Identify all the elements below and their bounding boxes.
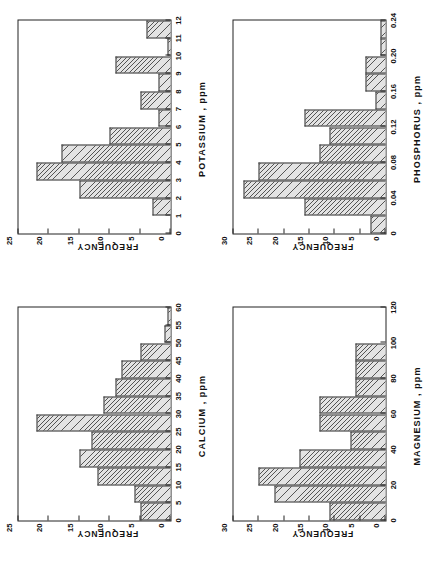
x-axis-label-potassium: POTASSIUM , ppm <box>197 11 207 276</box>
y-tick-label: 15 <box>296 236 305 244</box>
x-tick <box>166 306 171 307</box>
axis-ticks-phosphorus: 00.040.080.120.160.200.24051015202530 <box>233 20 385 233</box>
x-tick-label: 0 <box>174 231 183 235</box>
x-tick-label: 2 <box>174 195 183 199</box>
x-tick-label: 30 <box>174 409 183 417</box>
x-tick-label: 5 <box>174 142 183 146</box>
x-tick-label: 1 <box>174 213 183 217</box>
y-tick-label: 10 <box>321 236 330 244</box>
x-tick-label: 10 <box>174 480 183 488</box>
y-tick <box>257 515 258 520</box>
panel-phosphorus: FREQUENCY PHOSPHORUS , ppm 00.040.080.12… <box>215 0 429 287</box>
x-tick-label: 15 <box>174 463 183 471</box>
y-tick <box>359 515 360 520</box>
axis-ticks-potassium: 01234567891011120510152025 <box>19 20 171 233</box>
chart-potassium: FREQUENCY POTASSIUM , ppm 01234567891011… <box>10 11 206 276</box>
x-tick <box>380 197 385 198</box>
y-tick <box>139 228 140 233</box>
x-tick-label: 20 <box>388 480 397 488</box>
y-tick-label: 25 <box>5 523 14 531</box>
x-tick-label: 0.12 <box>388 119 397 134</box>
x-tick <box>166 72 171 73</box>
plot-area-phosphorus: 00.040.080.120.160.200.24051015202530 <box>232 19 386 234</box>
x-tick <box>166 448 171 449</box>
y-tick <box>170 515 171 520</box>
chart-magnesium: FREQUENCY MAGNESIUM , ppm 02040608010012… <box>224 298 420 563</box>
y-tick-label: 15 <box>296 523 305 531</box>
x-axis-label-calcium: CALCIUM , ppm <box>197 298 207 563</box>
x-tick-label: 55 <box>174 321 183 329</box>
y-tick-label: 20 <box>35 523 44 531</box>
y-tick <box>139 515 140 520</box>
x-axis-label-phosphorus: PHOSPHORUS , ppm <box>411 11 421 276</box>
x-tick <box>380 161 385 162</box>
x-tick-label: 120 <box>388 301 397 314</box>
y-tick <box>232 228 233 233</box>
y-tick <box>384 228 385 233</box>
chart-body-calcium: FREQUENCY CALCIUM , ppm 0510152025303540… <box>10 298 206 563</box>
y-tick <box>359 228 360 233</box>
x-tick-label: 0.08 <box>388 155 397 170</box>
y-tick <box>18 515 19 520</box>
x-tick-label: 100 <box>388 336 397 349</box>
x-tick <box>166 179 171 180</box>
x-tick-label: 0.20 <box>388 48 397 63</box>
x-tick <box>166 430 171 431</box>
x-tick-label: 20 <box>174 445 183 453</box>
y-tick-label: 20 <box>270 236 279 244</box>
x-tick-label: 0 <box>388 518 397 522</box>
chart-calcium: FREQUENCY CALCIUM , ppm 0510152025303540… <box>10 298 206 563</box>
y-tick-label: 10 <box>96 523 105 531</box>
y-tick <box>109 228 110 233</box>
x-tick <box>166 126 171 127</box>
x-tick <box>380 306 385 307</box>
x-tick <box>166 395 171 396</box>
x-tick-label: 3 <box>174 178 183 182</box>
figure-sheet: FREQUENCY POTASSIUM , ppm 01234567891011… <box>0 0 429 574</box>
x-tick <box>166 161 171 162</box>
y-tick-label: 30 <box>220 236 229 244</box>
x-tick-label: 0.04 <box>388 190 397 205</box>
y-tick-label: 5 <box>346 523 355 527</box>
y-tick <box>18 228 19 233</box>
x-tick <box>166 197 171 198</box>
y-tick <box>78 228 79 233</box>
y-tick-label: 5 <box>127 523 136 527</box>
chart-body-potassium: FREQUENCY POTASSIUM , ppm 01234567891011… <box>10 11 206 276</box>
x-tick <box>166 342 171 343</box>
x-tick-label: 35 <box>174 392 183 400</box>
panel-calcium: FREQUENCY CALCIUM , ppm 0510152025303540… <box>0 287 215 574</box>
y-tick-label: 5 <box>346 236 355 240</box>
y-tick <box>232 515 233 520</box>
y-tick <box>257 228 258 233</box>
axis-ticks-calcium: 0510152025303540455055600510152025 <box>19 307 171 520</box>
x-tick <box>166 55 171 56</box>
x-tick-label: 11 <box>174 34 183 42</box>
x-axis-label-magnesium: MAGNESIUM , ppm <box>411 298 421 563</box>
x-tick <box>166 501 171 502</box>
x-tick-label: 0 <box>388 231 397 235</box>
x-tick <box>380 90 385 91</box>
y-tick-label: 25 <box>5 236 14 244</box>
y-tick <box>283 515 284 520</box>
y-tick-label: 25 <box>245 523 254 531</box>
y-tick <box>308 228 309 233</box>
y-tick-label: 10 <box>96 236 105 244</box>
y-tick <box>48 515 49 520</box>
y-tick-label: 25 <box>245 236 254 244</box>
x-tick <box>166 19 171 20</box>
panel-potassium: FREQUENCY POTASSIUM , ppm 01234567891011… <box>0 0 215 287</box>
plot-area-magnesium: 020406080100120051015202530 <box>232 306 386 521</box>
y-tick <box>333 515 334 520</box>
x-tick-label: 8 <box>174 89 183 93</box>
y-tick <box>48 228 49 233</box>
x-tick-label: 5 <box>174 500 183 504</box>
y-tick-label: 15 <box>66 523 75 531</box>
x-tick <box>166 359 171 360</box>
y-tick-label: 5 <box>127 236 136 240</box>
x-tick-label: 50 <box>174 338 183 346</box>
x-tick <box>166 324 171 325</box>
x-tick <box>166 143 171 144</box>
x-tick-label: 60 <box>174 303 183 311</box>
y-tick <box>283 228 284 233</box>
